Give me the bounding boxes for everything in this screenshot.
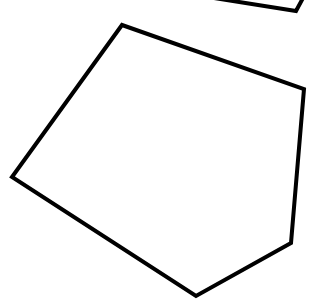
diagram-canvas bbox=[0, 0, 319, 301]
partial-polygon-top bbox=[214, 0, 303, 11]
pentagon-outline bbox=[12, 25, 304, 296]
